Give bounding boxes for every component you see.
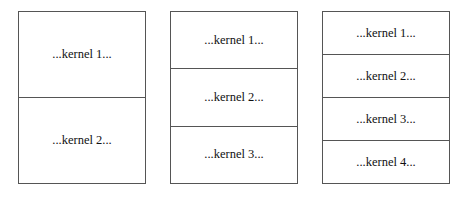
kernel-cell: ...kernel 2...: [19, 97, 145, 183]
kernel-cell: ...kernel 1...: [323, 12, 449, 54]
kernel-cell: ...kernel 2...: [171, 68, 297, 125]
kernel-cell: ...kernel 3...: [323, 97, 449, 140]
kernel-cell: ...kernel 4...: [323, 140, 449, 183]
partition-two-kernels: ...kernel 1... ...kernel 2...: [18, 11, 146, 184]
partition-three-kernels: ...kernel 1... ...kernel 2... ...kernel …: [170, 11, 298, 184]
kernel-cell: ...kernel 3...: [171, 126, 297, 183]
kernel-cell: ...kernel 2...: [323, 54, 449, 97]
partition-four-kernels: ...kernel 1... ...kernel 2... ...kernel …: [322, 11, 450, 184]
kernel-cell: ...kernel 1...: [19, 12, 145, 97]
kernel-cell: ...kernel 1...: [171, 12, 297, 68]
